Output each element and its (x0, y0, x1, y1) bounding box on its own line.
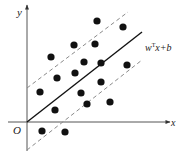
data-point (97, 78, 104, 85)
data-point (80, 58, 87, 65)
upper-margin-line (27, 12, 128, 88)
data-point (38, 127, 45, 134)
hyperplane-line (27, 32, 142, 122)
hyperplane-label: wTx+b (145, 42, 172, 53)
data-point (119, 23, 126, 30)
data-point (71, 69, 78, 76)
x-axis-label: x (170, 117, 176, 128)
origin-label: O (13, 124, 21, 136)
data-point (70, 41, 77, 48)
data-point (47, 53, 54, 60)
data-points (36, 17, 130, 135)
data-point (53, 74, 60, 81)
data-point (106, 98, 113, 105)
svm-diagram: y x O wTx+b (0, 0, 182, 160)
data-point (97, 59, 104, 66)
data-point (51, 106, 58, 113)
y-axis-label: y (16, 6, 22, 18)
data-point (61, 128, 68, 135)
data-point (93, 17, 100, 24)
hyperplane-label-rest: x+b (154, 42, 171, 53)
data-point (36, 88, 43, 95)
data-point (83, 100, 90, 107)
data-point (77, 89, 84, 96)
data-point (123, 61, 130, 68)
data-point (91, 40, 98, 47)
